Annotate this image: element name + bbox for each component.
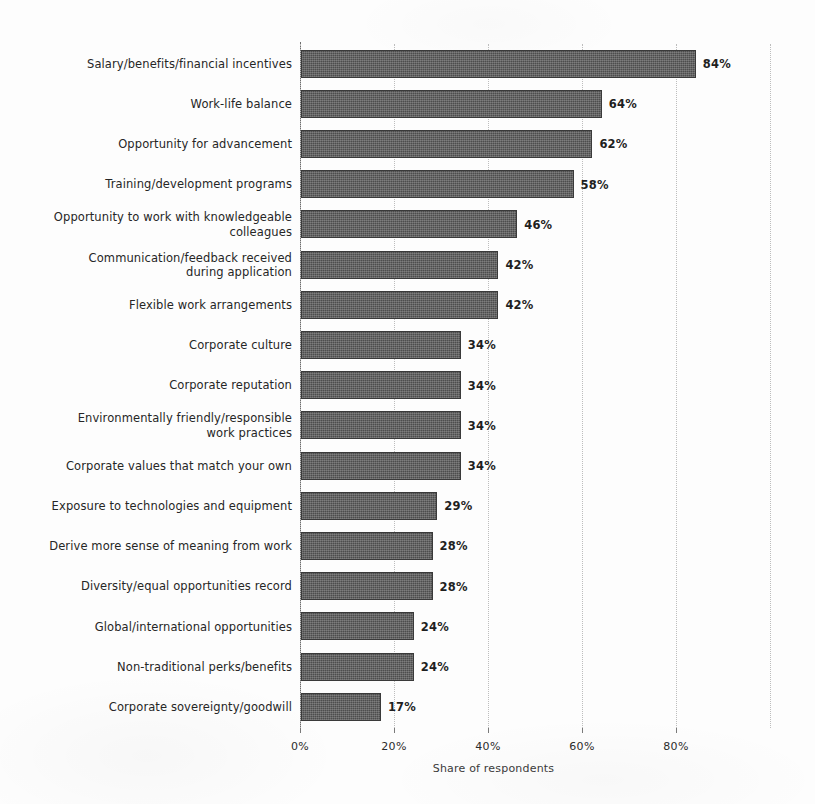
category-label-line: during application — [186, 265, 292, 280]
bar-row: Diversity/equal opportunities record28% — [0, 567, 815, 607]
bar-value-label: 46% — [524, 205, 552, 245]
bar-value-label: 84% — [703, 44, 731, 84]
category-label-line: Flexible work arrangements — [129, 298, 292, 313]
category-label: Corporate culture — [0, 325, 292, 365]
category-label-line: Training/development programs — [105, 177, 292, 192]
bar[interactable] — [301, 371, 461, 399]
category-label: Training/development programs — [0, 165, 292, 205]
bar-value-label: 24% — [421, 607, 449, 647]
bar-row: Exposure to technologies and equipment29… — [0, 486, 815, 526]
bar-value-label: 29% — [444, 486, 472, 526]
category-label-line: Global/international opportunities — [95, 620, 292, 635]
x-tick-mark — [300, 728, 301, 733]
bar[interactable] — [301, 50, 696, 78]
bar[interactable] — [301, 170, 574, 198]
x-tick-label: 0% — [291, 740, 309, 753]
x-tick-mark — [394, 728, 395, 733]
bar-value-label: 24% — [421, 647, 449, 687]
bar[interactable] — [301, 331, 461, 359]
bar[interactable] — [301, 90, 602, 118]
category-label-line: Corporate reputation — [169, 378, 292, 393]
bar-row: Communication/feedback receivedduring ap… — [0, 245, 815, 285]
bar-value-label: 64% — [609, 84, 637, 124]
x-tick-label: 80% — [663, 740, 688, 753]
bar[interactable] — [301, 693, 381, 721]
bar[interactable] — [301, 251, 498, 279]
category-label-line: Opportunity for advancement — [118, 137, 292, 152]
category-label: Environmentally friendly/responsiblework… — [0, 406, 292, 446]
bar-value-label: 34% — [468, 406, 496, 446]
x-tick-label: 60% — [569, 740, 594, 753]
bar[interactable] — [301, 572, 433, 600]
category-label: Exposure to technologies and equipment — [0, 486, 292, 526]
bar[interactable] — [301, 452, 461, 480]
bar[interactable] — [301, 653, 414, 681]
x-tick-mark — [488, 728, 489, 733]
category-label-line: Corporate values that match your own — [66, 459, 292, 474]
category-label: Flexible work arrangements — [0, 285, 292, 325]
bar-row: Opportunity for advancement62% — [0, 124, 815, 164]
bar-value-label: 17% — [388, 687, 416, 727]
bar-value-label: 58% — [581, 165, 609, 205]
category-label-line: Salary/benefits/financial incentives — [87, 57, 292, 72]
category-label-line: Non-traditional perks/benefits — [117, 660, 292, 675]
category-label-line: Communication/feedback received — [89, 251, 292, 266]
bar-row: Corporate culture34% — [0, 325, 815, 365]
category-label-line: Corporate sovereignty/goodwill — [109, 700, 292, 715]
x-tick-mark — [676, 728, 677, 733]
bar-value-label: 28% — [440, 567, 468, 607]
category-label: Non-traditional perks/benefits — [0, 647, 292, 687]
category-label-line: Diversity/equal opportunities record — [81, 579, 292, 594]
bar-row: Non-traditional perks/benefits24% — [0, 647, 815, 687]
category-label: Corporate sovereignty/goodwill — [0, 687, 292, 727]
bar-row: Corporate values that match your own34% — [0, 446, 815, 486]
category-label-line: Exposure to technologies and equipment — [52, 499, 292, 514]
category-label-line: work practices — [207, 426, 292, 441]
bar-value-label: 34% — [468, 325, 496, 365]
category-label-line: Environmentally friendly/responsible — [78, 411, 292, 426]
bar-row: Training/development programs58% — [0, 165, 815, 205]
x-axis-title: Share of respondents — [0, 762, 815, 775]
bar-value-label: 34% — [468, 366, 496, 406]
bar[interactable] — [301, 612, 414, 640]
bar-value-label: 42% — [505, 245, 533, 285]
bar-value-label: 34% — [468, 446, 496, 486]
plot-area: Salary/benefits/financial incentives84%W… — [300, 44, 772, 728]
category-label-line: Work-life balance — [191, 97, 292, 112]
bar-chart: Salary/benefits/financial incentives84%W… — [0, 0, 815, 804]
category-label-line: Corporate culture — [189, 338, 292, 353]
bar-row: Flexible work arrangements42% — [0, 285, 815, 325]
bar-row: Salary/benefits/financial incentives84% — [0, 44, 815, 84]
category-label: Opportunity to work with knowledgeableco… — [0, 205, 292, 245]
bar[interactable] — [301, 291, 498, 319]
bar-value-label: 42% — [505, 285, 533, 325]
bar-value-label: 28% — [440, 526, 468, 566]
bar[interactable] — [301, 492, 437, 520]
bar-row: Corporate reputation34% — [0, 366, 815, 406]
bar-row: Global/international opportunities24% — [0, 607, 815, 647]
bar[interactable] — [301, 210, 517, 238]
bar-row: Corporate sovereignty/goodwill17% — [0, 687, 815, 727]
bar[interactable] — [301, 411, 461, 439]
category-label: Salary/benefits/financial incentives — [0, 44, 292, 84]
category-label-line: Derive more sense of meaning from work — [49, 539, 292, 554]
bar[interactable] — [301, 130, 592, 158]
category-label: Communication/feedback receivedduring ap… — [0, 245, 292, 285]
bar[interactable] — [301, 532, 433, 560]
x-tick-label: 40% — [475, 740, 500, 753]
category-label: Derive more sense of meaning from work — [0, 526, 292, 566]
category-label: Corporate reputation — [0, 366, 292, 406]
category-label: Diversity/equal opportunities record — [0, 567, 292, 607]
category-label: Opportunity for advancement — [0, 124, 292, 164]
bar-row: Environmentally friendly/responsiblework… — [0, 406, 815, 446]
x-tick-mark — [582, 728, 583, 733]
category-label: Global/international opportunities — [0, 607, 292, 647]
category-label-line: colleagues — [229, 225, 292, 240]
bar-row: Work-life balance64% — [0, 84, 815, 124]
bar-value-label: 62% — [599, 124, 627, 164]
bar-row: Opportunity to work with knowledgeableco… — [0, 205, 815, 245]
bar-row: Derive more sense of meaning from work28… — [0, 526, 815, 566]
category-label: Work-life balance — [0, 84, 292, 124]
x-tick-label: 20% — [381, 740, 406, 753]
category-label: Corporate values that match your own — [0, 446, 292, 486]
